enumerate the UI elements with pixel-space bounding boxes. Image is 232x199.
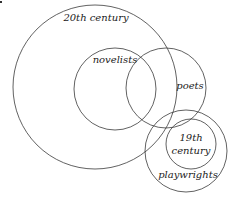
corner-mark [0, 1, 2, 3]
label-novelists: novelists [93, 54, 138, 65]
circle-19th-century [166, 119, 216, 169]
circle-20th-century [13, 5, 177, 169]
set-poets: poets [126, 48, 206, 128]
set-novelists: novelists [74, 48, 156, 130]
venn-diagram: 20th century novelists poets playwrights… [0, 0, 232, 199]
label-poets: poets [176, 80, 204, 91]
label-playwrights: playwrights [158, 169, 218, 180]
label-19th-century-line-1: 19th [179, 132, 202, 143]
set-19th-century: 19th century [166, 119, 216, 169]
label-19th-century-line-2: century [172, 145, 211, 156]
label-20th-century: 20th century [62, 12, 129, 23]
set-20th-century: 20th century [13, 5, 177, 169]
